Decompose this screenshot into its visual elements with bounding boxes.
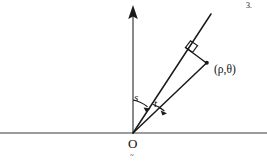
- figure-root: s t (ρ,θ) O ~ 3.: [0, 0, 267, 163]
- corner-text-fragment: 3.: [246, 1, 252, 10]
- ray-t-line: [133, 63, 207, 133]
- angle-t-label: t: [154, 97, 158, 109]
- point-marker: [205, 61, 209, 65]
- ray-s-line: [133, 14, 211, 133]
- angle-s-label: s: [134, 91, 138, 103]
- point-label: (ρ,θ): [214, 63, 236, 76]
- origin-label: O: [128, 136, 137, 151]
- polar-angle-diagram: s t (ρ,θ) O ~ 3.: [0, 0, 267, 163]
- origin-undermark: ~: [130, 151, 134, 159]
